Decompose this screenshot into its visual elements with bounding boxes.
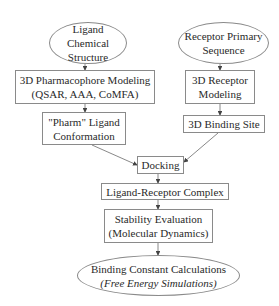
node-label-line: Ligand Chemical bbox=[50, 22, 126, 50]
node-label-line: Conformation bbox=[53, 129, 115, 143]
node-binding-constant-calculations: Binding Constant Calculations (Free Ener… bbox=[77, 255, 240, 296]
node-label-line: 3D Binding Site bbox=[188, 117, 260, 131]
node-label-line: Ligand-Receptor Complex bbox=[106, 185, 224, 199]
node-3d-pharmacophore-modeling: 3D Pharmacophore Modeling (QSAR, AAA, Co… bbox=[15, 70, 155, 104]
node-label-line: Sequence bbox=[202, 43, 244, 57]
node-3d-binding-site: 3D Binding Site bbox=[183, 115, 265, 133]
node-label-line: 3D Pharmacophore Modeling bbox=[20, 73, 151, 87]
node-label-line: "Pharm" Ligand bbox=[48, 115, 120, 129]
node-ligand-chemical-structure: Ligand Chemical Structure bbox=[49, 22, 127, 64]
node-label-line: Docking bbox=[142, 158, 180, 172]
node-stability-evaluation: Stability Evaluation (Molecular Dynamics… bbox=[104, 209, 213, 243]
arrow-binding-site-to-docking bbox=[184, 133, 218, 162]
node-label-line: Receptor Primary bbox=[185, 29, 263, 43]
node-label-line: 3D Receptor bbox=[192, 73, 248, 87]
node-receptor-primary-sequence: Receptor Primary Sequence bbox=[178, 22, 269, 64]
node-label-line: (QSAR, AAA, CoMFA) bbox=[32, 87, 139, 101]
node-docking: Docking bbox=[137, 156, 184, 174]
node-3d-receptor-modeling: 3D Receptor Modeling bbox=[185, 70, 255, 104]
node-label-line: Stability Evaluation bbox=[115, 212, 203, 226]
node-ligand-receptor-complex: Ligand-Receptor Complex bbox=[101, 183, 229, 200]
node-label-line: Modeling bbox=[199, 87, 242, 101]
node-label-line: (Molecular Dynamics) bbox=[109, 226, 209, 240]
node-label-line: (Free Energy Simulations) bbox=[100, 276, 217, 290]
node-label-line: Structure bbox=[68, 50, 108, 64]
node-pharm-ligand-conformation: "Pharm" Ligand Conformation bbox=[42, 112, 126, 145]
arrow-conformation-to-docking bbox=[92, 145, 137, 165]
node-label-line: Binding Constant Calculations bbox=[91, 262, 226, 276]
